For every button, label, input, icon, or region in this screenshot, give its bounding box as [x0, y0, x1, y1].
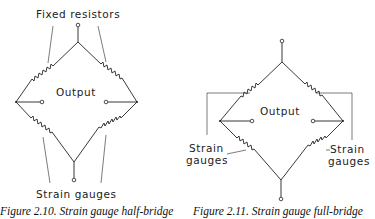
output-label: Output — [56, 86, 96, 98]
output-terminal-right — [104, 100, 108, 104]
strain-gauge-left — [16, 102, 74, 162]
strain-gauges-label-left-2: gauges — [186, 154, 228, 166]
strain-gauges-label-right-2: gauges — [328, 155, 370, 167]
figure-caption-2-11: Figure 2.11. Strain gauge full-bridge — [192, 205, 363, 218]
output-terminal-left — [250, 119, 254, 123]
output-label: Output — [260, 105, 300, 117]
strain-gauges-label-right-1: Strain — [330, 143, 365, 155]
half-bridge-diagram: Fixed resistors Output Strain gauges Fig… — [0, 8, 173, 218]
output-terminal-right — [311, 119, 315, 123]
bottom-terminal — [72, 178, 76, 182]
strain-gauges-label: Strain gauges — [36, 188, 117, 200]
top-terminal — [76, 23, 80, 27]
output-terminal-left — [40, 100, 44, 104]
strain-gauge-right — [74, 102, 137, 162]
strain-gauge-diagrams: Fixed resistors Output Strain gauges Fig… — [0, 0, 375, 219]
top-terminal — [280, 39, 284, 43]
figure-caption-2-10: Figure 2.10. Strain gauge half-bridge — [0, 205, 173, 218]
strain-gauge-lower-left — [220, 121, 281, 180]
full-bridge-diagram: Output Strain gauges Strain gauges Figur… — [186, 39, 370, 218]
bottom-terminal — [279, 197, 283, 201]
strain-gauges-label-left-1: Strain — [189, 142, 224, 154]
fixed-resistors-label: Fixed resistors — [36, 8, 120, 20]
